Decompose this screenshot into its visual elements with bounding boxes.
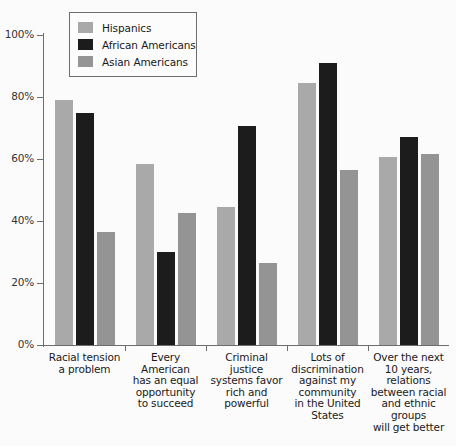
bar: [55, 100, 73, 345]
y-tick-mark: [37, 159, 44, 160]
x-axis-label-line: a problem: [44, 364, 125, 376]
bar: [157, 252, 175, 345]
x-axis-label: Criminaljusticesystems favorrich andpowe…: [206, 352, 287, 410]
bar: [76, 113, 94, 346]
bar: [379, 157, 397, 345]
y-tick-label: 40%: [0, 214, 34, 226]
legend-label-hispanics: Hispanics: [102, 22, 151, 34]
y-tick-mark: [37, 35, 44, 36]
x-axis-label-line: Over the next: [368, 352, 449, 364]
legend-item: Hispanics: [78, 19, 184, 36]
y-tick-label: 20%: [0, 276, 34, 288]
bar: [136, 164, 154, 345]
y-tick-mark: [37, 283, 44, 284]
x-axis-label: Racial tensiona problem: [44, 352, 125, 375]
x-axis-label-line: to succeed: [125, 398, 206, 410]
legend-swatch-hispanics: [78, 22, 93, 33]
legend-label-asian-americans: Asian Americans: [102, 56, 188, 68]
bar: [400, 137, 418, 345]
x-axis-label: Every Americanhas an equalopportunityto …: [125, 352, 206, 410]
group-divider: [368, 345, 369, 351]
bar: [421, 154, 439, 345]
y-tick-mark: [37, 97, 44, 98]
x-axis-label-line: Every American: [125, 352, 206, 375]
x-axis-label-line: Racial tension: [44, 352, 125, 364]
legend-swatch-african-americans: [78, 39, 93, 50]
bar: [178, 213, 196, 345]
x-axis-label-line: groups: [368, 410, 449, 422]
bar: [340, 170, 358, 345]
legend-label-african-americans: African Americans: [102, 39, 196, 51]
legend-item: African Americans: [78, 36, 184, 53]
x-axis-label-line: States: [287, 410, 368, 422]
y-tick-label: 80%: [0, 90, 34, 102]
bar: [97, 232, 115, 345]
group-divider: [287, 345, 288, 351]
y-tick-label: 100%: [0, 28, 34, 40]
y-tick-label: 0%: [0, 338, 34, 350]
legend: Hispanics African Americans Asian Americ…: [69, 12, 197, 77]
x-axis-label-line: Lots of: [287, 352, 368, 364]
bar: [319, 63, 337, 345]
x-axis-label-line: powerful: [206, 398, 287, 410]
x-axis-label: Lots ofdiscriminationagainst mycommunity…: [287, 352, 368, 422]
legend-swatch-asian-americans: [78, 56, 93, 67]
y-tick-mark: [37, 345, 44, 346]
y-tick-label: 60%: [0, 152, 34, 164]
bar: [298, 83, 316, 345]
group-divider: [206, 345, 207, 351]
legend-item: Asian Americans: [78, 53, 184, 70]
plot-area: [44, 35, 449, 345]
bar-chart: 100%80%60%40%20%0% Hispanics African Ame…: [0, 0, 456, 446]
bar: [238, 126, 256, 345]
group-divider: [125, 345, 126, 351]
bar: [217, 207, 235, 345]
x-axis-label-line: Criminal: [206, 352, 287, 364]
x-axis-label-line: will get better: [368, 422, 449, 434]
bar: [259, 263, 277, 345]
x-axis-line: [43, 345, 449, 346]
y-tick-mark: [37, 221, 44, 222]
x-axis-labels: Racial tensiona problemEvery Americanhas…: [44, 352, 449, 444]
x-axis-label: Over the next10 years,relationsbetween r…: [368, 352, 449, 433]
